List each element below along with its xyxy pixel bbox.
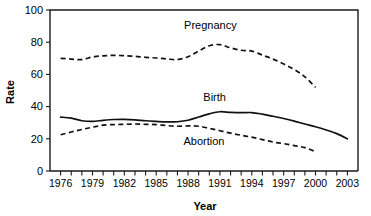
x-tick-label: 2000 bbox=[304, 177, 328, 189]
x-tick-label: 1979 bbox=[81, 177, 105, 189]
y-tick-label: 60 bbox=[31, 68, 43, 80]
y-tick-label: 40 bbox=[31, 100, 43, 112]
y-tick-label: 100 bbox=[25, 4, 43, 16]
x-tick-label: 1997 bbox=[272, 177, 296, 189]
chart-canvas: 020406080100 197619791982198519881991199… bbox=[0, 0, 371, 216]
x-axis-tick-labels: 1976197919821985198819911994199720002003 bbox=[49, 177, 359, 189]
pregnancy-birth-abortion-rate-chart: 020406080100 197619791982198519881991199… bbox=[0, 0, 371, 216]
y-axis-tick-labels: 020406080100 bbox=[25, 4, 43, 177]
y-axis-title: Rate bbox=[4, 80, 16, 104]
x-tick-label: 1976 bbox=[49, 177, 73, 189]
x-tick-label: 1988 bbox=[176, 177, 200, 189]
y-tick-label: 0 bbox=[37, 165, 43, 177]
y-tick-label: 80 bbox=[31, 36, 43, 48]
x-tick-label: 2003 bbox=[336, 177, 360, 189]
series-label-birth: Birth bbox=[203, 91, 226, 103]
y-tick-label: 20 bbox=[31, 133, 43, 145]
series-label-abortion: Abortion bbox=[184, 135, 225, 147]
x-tick-label: 1994 bbox=[240, 177, 264, 189]
series-label-pregnancy: Pregnancy bbox=[184, 19, 237, 31]
series-line-pregnancy bbox=[61, 44, 316, 87]
series-annotation-labels: PregnancyBirthAbortion bbox=[184, 19, 238, 147]
x-tick-label: 1985 bbox=[145, 177, 169, 189]
x-tick-label: 1982 bbox=[113, 177, 137, 189]
x-axis-title: Year bbox=[193, 200, 217, 212]
x-tick-label: 1991 bbox=[208, 177, 232, 189]
